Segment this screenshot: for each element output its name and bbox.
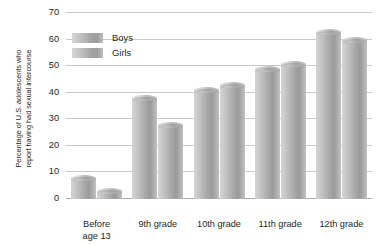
bar-group-2 (132, 13, 183, 199)
bar-cap-shade (316, 31, 341, 36)
bar-cap-shade (158, 124, 183, 129)
y-axis-tick-70: 70 (49, 7, 59, 17)
x-axis-label-line: age 13 (51, 231, 143, 243)
y-axis-tick-20: 20 (49, 140, 59, 150)
bar-group-4 (255, 13, 306, 199)
y-axis-title-line-2: report having had sexual intercourse (24, 7, 34, 211)
y-axis-tick-60: 60 (49, 34, 59, 44)
legend-item-girls: Girls (72, 46, 133, 59)
bar-girls-5 (342, 40, 367, 199)
x-axis-label-line: 12th grade (295, 219, 386, 231)
y-axis-tick-40: 40 (49, 87, 59, 97)
bar-girls-3 (220, 85, 245, 199)
bar-cap-shade (71, 177, 96, 182)
y-axis-tick-0: 0 (54, 193, 59, 203)
bar-cap-shade (281, 63, 306, 68)
bar-boys-2 (132, 98, 157, 199)
bar-chart: Percentage of U.S. adolescents who repor… (0, 0, 386, 245)
legend-swatch-girls (72, 48, 103, 58)
bar-cap-shade (132, 97, 157, 102)
bar-girls-4 (281, 64, 306, 200)
bar-group-5 (316, 13, 367, 199)
y-axis-tick-50: 50 (49, 60, 59, 70)
bar-boys-5 (316, 32, 341, 199)
y-axis-title-line-1: Percentage of U.S. adolescents who (14, 7, 24, 211)
bar-cap-shade (194, 89, 219, 94)
bar-girls-2 (158, 125, 183, 199)
bar-cap-shade (342, 39, 367, 44)
legend-item-boys: Boys (72, 31, 133, 44)
y-axis-title: Percentage of U.S. adolescents who repor… (0, 0, 30, 215)
bar-cap-shade (220, 84, 245, 89)
legend-label-girls: Girls (112, 47, 131, 58)
bar-group-3 (194, 13, 245, 199)
legend: Boys Girls (72, 31, 133, 61)
bar-boys-1 (71, 178, 96, 199)
y-axis-tick-10: 10 (49, 166, 59, 176)
legend-swatch-boys (72, 33, 103, 43)
bar-boys-3 (194, 90, 219, 199)
y-axis-tick-30: 30 (49, 113, 59, 123)
legend-label-boys: Boys (112, 32, 133, 43)
bar-cap-shade (255, 68, 280, 73)
bar-cap-shade (97, 190, 122, 195)
bar-girls-1 (97, 191, 122, 199)
x-axis-label-5: 12th grade (295, 219, 386, 231)
bar-boys-4 (255, 69, 280, 199)
